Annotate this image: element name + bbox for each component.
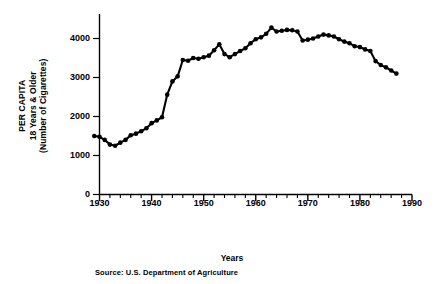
data-point-1981 [363, 47, 368, 52]
x-tick-label-1990: 1990 [392, 199, 432, 208]
source-note: Source: U.S. Department of Agriculture [95, 268, 238, 277]
data-point-1949 [196, 56, 201, 61]
data-point-1940 [149, 121, 154, 126]
data-point-1954 [222, 52, 227, 57]
data-point-1943 [165, 92, 170, 97]
data-point-1979 [352, 44, 357, 49]
data-point-1978 [347, 41, 352, 46]
x-tick-label-1950: 1950 [184, 199, 224, 208]
data-point-1951 [207, 53, 212, 58]
data-point-1935 [123, 138, 128, 143]
data-point-1966 [285, 28, 290, 33]
x-tick-label-1940: 1940 [132, 199, 172, 208]
data-point-1987 [394, 71, 399, 76]
data-point-1938 [139, 129, 144, 134]
data-point-1942 [160, 115, 165, 120]
data-point-markers [92, 25, 399, 148]
data-point-1971 [311, 36, 316, 41]
plot-area [0, 0, 446, 284]
x-tick-label-1960: 1960 [236, 199, 276, 208]
data-point-1968 [295, 29, 300, 34]
data-point-1963 [269, 25, 274, 30]
data-point-1955 [227, 55, 232, 60]
data-point-1929 [92, 134, 97, 139]
data-point-1960 [253, 37, 258, 42]
data-point-1958 [243, 46, 248, 51]
data-point-1962 [264, 32, 269, 37]
data-point-1957 [238, 49, 243, 54]
x-axis-tick-labels: 1930194019501960197019801990 [0, 199, 446, 239]
data-point-1964 [274, 29, 279, 34]
data-point-1965 [279, 28, 284, 33]
x-tick-label-1930: 1930 [80, 199, 120, 208]
data-point-1975 [332, 34, 337, 39]
data-point-1947 [186, 58, 191, 63]
y-axis-ticks [93, 39, 100, 195]
data-point-1976 [337, 37, 342, 42]
data-point-1936 [128, 133, 133, 138]
data-point-1974 [326, 33, 331, 38]
data-point-1946 [181, 58, 186, 63]
data-point-1945 [175, 74, 180, 79]
data-point-1939 [144, 126, 149, 131]
data-point-1930 [97, 134, 102, 139]
data-point-1967 [290, 28, 295, 33]
x-axis-title: Years [221, 253, 244, 263]
x-tick-label-1970: 1970 [288, 199, 328, 208]
data-line-series-1 [94, 28, 396, 146]
data-point-1937 [134, 131, 139, 136]
data-point-1950 [201, 55, 206, 60]
data-point-1961 [259, 35, 264, 40]
data-point-1983 [373, 59, 378, 64]
data-point-1931 [102, 138, 107, 143]
data-point-1933 [113, 143, 118, 148]
data-point-1941 [154, 118, 159, 123]
x-tick-label-1980: 1980 [340, 199, 380, 208]
x-axis-title-container: Years [0, 253, 446, 263]
data-point-1952 [212, 48, 217, 53]
data-point-1944 [170, 79, 175, 84]
data-point-1969 [300, 38, 305, 43]
data-point-1953 [217, 42, 222, 47]
data-point-1959 [248, 41, 253, 46]
data-point-1973 [321, 32, 326, 37]
data-point-1980 [358, 45, 363, 50]
data-point-1982 [368, 49, 373, 54]
data-point-1977 [342, 39, 347, 44]
data-point-1948 [191, 56, 196, 61]
data-point-1985 [384, 65, 389, 70]
data-point-1934 [118, 140, 123, 145]
data-point-1986 [389, 68, 394, 73]
data-point-1932 [108, 142, 113, 147]
data-point-1972 [316, 34, 321, 39]
chart-figure: PER CAPITA 18 Years & Older (Number of C… [0, 0, 446, 284]
data-point-1970 [306, 37, 311, 42]
data-point-1956 [233, 52, 238, 57]
data-point-1984 [378, 63, 383, 68]
